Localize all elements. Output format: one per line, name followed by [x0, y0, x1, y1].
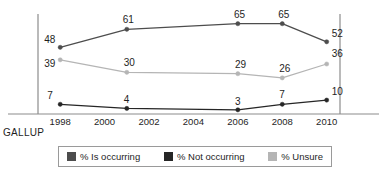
- legend-swatch-not-occurring: [164, 152, 173, 161]
- data-label-is-occurring-1998: 48: [44, 35, 55, 45]
- legend-label-not-occurring: % Not occurring: [177, 152, 245, 162]
- data-point-not-occurring-2001: [125, 106, 129, 110]
- x-tick-label-2010: 2010: [316, 117, 337, 127]
- legend-item-unsure[interactable]: % Unsure: [268, 152, 323, 162]
- legend-label-unsure: % Unsure: [281, 152, 323, 162]
- data-label-unsure-2001: 30: [124, 58, 135, 68]
- data-point-unsure-2001: [125, 70, 129, 74]
- data-label-is-occurring-2010: 52: [332, 29, 343, 39]
- data-label-not-occurring-2010: 10: [332, 87, 343, 97]
- x-tick-label-2006: 2006: [227, 117, 248, 127]
- data-point-unsure-1998: [58, 58, 62, 62]
- source-attribution: GALLUP: [3, 127, 44, 138]
- legend-item-is-occurring[interactable]: % Is occurring: [67, 152, 140, 162]
- chart-axes: [8, 14, 379, 114]
- series-line-is-occurring: [60, 24, 326, 48]
- legend-label-is-occurring: % Is occurring: [80, 152, 140, 162]
- x-tick-label-2004: 2004: [183, 117, 204, 127]
- data-label-is-occurring-2006: 65: [234, 10, 245, 20]
- data-point-is-occurring-2008: [280, 22, 284, 26]
- x-tick-label-2000: 2000: [94, 117, 115, 127]
- x-tick-label-2002: 2002: [138, 117, 159, 127]
- data-label-unsure-2006: 29: [235, 60, 246, 70]
- data-label-unsure-1998: 39: [44, 59, 55, 69]
- x-tick-label-2008: 2008: [272, 117, 293, 127]
- legend-item-not-occurring[interactable]: % Not occurring: [164, 152, 245, 162]
- legend-swatch-unsure: [268, 152, 277, 161]
- legend-swatch-is-occurring: [67, 152, 76, 161]
- series-line-not-occurring: [60, 100, 326, 110]
- data-point-not-occurring-2008: [280, 102, 284, 106]
- data-label-not-occurring-2008: 7: [279, 90, 285, 100]
- data-point-unsure-2006: [236, 72, 240, 76]
- chart-container: 1998200020022004200620082010 48616565527…: [0, 0, 387, 178]
- data-point-is-occurring-2006: [236, 22, 240, 26]
- x-tick-label-1998: 1998: [50, 117, 71, 127]
- data-point-is-occurring-2001: [125, 27, 129, 31]
- data-point-not-occurring-2006: [236, 108, 240, 112]
- data-label-is-occurring-2001: 61: [123, 15, 134, 25]
- data-label-unsure-2010: 36: [332, 49, 343, 59]
- data-point-is-occurring-1998: [58, 45, 62, 49]
- data-label-unsure-2008: 26: [279, 64, 290, 74]
- data-point-unsure-2008: [280, 76, 284, 80]
- chart-legend: % Is occurring % Not occurring % Unsure: [58, 146, 332, 167]
- data-label-not-occurring-2006: 3: [235, 97, 241, 107]
- data-label-is-occurring-2008: 65: [278, 10, 289, 20]
- data-point-not-occurring-1998: [58, 102, 62, 106]
- data-point-not-occurring-2010: [325, 98, 329, 102]
- data-label-not-occurring-1998: 7: [47, 91, 53, 101]
- data-label-not-occurring-2001: 4: [124, 95, 130, 105]
- data-point-is-occurring-2010: [325, 40, 329, 44]
- data-point-unsure-2010: [325, 62, 329, 66]
